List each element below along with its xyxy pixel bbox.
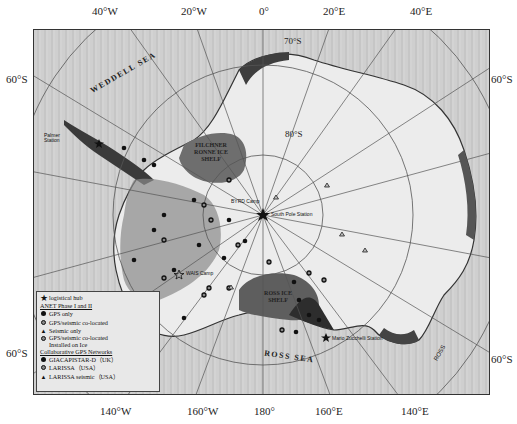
ringed-circle-icon <box>41 365 46 370</box>
lon-tick-40w-top: 40°W <box>92 5 118 17</box>
legend-larissa: LARISSA（USA） <box>40 364 156 372</box>
lon-tick-20e-top: 20°E <box>323 5 345 17</box>
lat-tick-right-upper: 60°S <box>491 73 513 85</box>
legend-collab-header: Collaborative GPS Networks <box>40 348 156 356</box>
palmer-station-label: Palmer Station <box>44 133 64 143</box>
triangle-icon: ▲ <box>40 327 47 335</box>
antarctic-peninsula <box>64 120 154 185</box>
star-icon: ★ <box>40 294 47 302</box>
legend-giacapistar: GIACAPISTAR-D（UK） <box>40 356 156 364</box>
legend-gps-seismic-ice: GPS/seismic co-locatedInstalled on Ice <box>40 335 156 348</box>
lon-tick-160w-bottom: 160°W <box>187 405 218 417</box>
lon-tick-40e-top: 40°E <box>410 5 432 17</box>
lat-tick-left-upper: 60°S <box>6 73 28 85</box>
lat-label-80s: 80°S <box>285 129 303 139</box>
legend-anet-header: ANET Phase I and II <box>40 302 156 310</box>
byrd-camp-label: BYRD Camp <box>231 198 260 204</box>
lat-label-70s: 70°S <box>284 36 302 46</box>
legend-label: logistical hub <box>49 294 83 302</box>
ross-ice-shelf-label: ROSS ICE SHELF <box>259 290 297 304</box>
map-legend: ★ logistical hub ANET Phase I and II GPS… <box>36 291 160 392</box>
lon-tick-20w-top: 20°W <box>181 5 207 17</box>
lon-tick-140w-bottom: 140°W <box>100 405 131 417</box>
legend-gps-only: GPS only <box>40 310 156 318</box>
wais-camp-label: WAIS Camp <box>186 270 213 276</box>
lat-tick-left-lower: 60°S <box>6 347 28 359</box>
legend-logistical-hub: ★ logistical hub <box>40 294 156 302</box>
lon-tick-160e-bottom: 160°E <box>315 405 343 417</box>
lon-tick-180-bottom: 180° <box>254 405 275 417</box>
filled-circle-icon <box>41 311 46 316</box>
filled-circle-icon <box>41 357 46 362</box>
ringed-circle-icon <box>41 320 46 325</box>
filchner-ronne-label: FILCHNER RONNE ICE SHELF <box>186 142 236 163</box>
lat-tick-right-lower: 60°S <box>491 353 513 365</box>
legend-larissa-seismic: ▲ LARISSA seismic（USA） <box>40 373 156 381</box>
lon-tick-0-top: 0° <box>259 5 269 17</box>
ringed-circle-icon <box>41 336 46 341</box>
legend-gps-seismic: GPS/seismic co-located <box>40 319 156 327</box>
mario-zucchelli-label: Mario Zucchelli Station <box>332 335 383 341</box>
lon-tick-140e-bottom: 140°E <box>401 405 429 417</box>
south-pole-station-label: South Pole Station <box>271 211 312 217</box>
triangle-icon: ▲ <box>40 373 47 381</box>
